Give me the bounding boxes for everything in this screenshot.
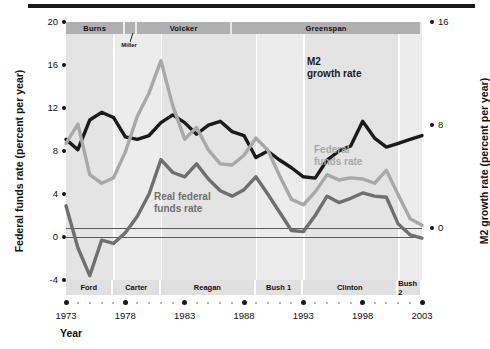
x-tick-label-1983: 1983 <box>165 310 205 321</box>
x-minor-dot <box>385 302 387 304</box>
annotation-rff-line1: Real federal <box>154 191 211 203</box>
x-axis-dot-row <box>66 299 422 307</box>
y-tick-right-0: 0 <box>430 222 443 233</box>
annotation-rff-line2: funds rate <box>154 203 211 215</box>
annotation-ff-line1: Federal <box>314 144 362 156</box>
y-tick-left-16: 16 <box>22 59 66 70</box>
plot-area <box>66 22 422 280</box>
y-tick-left-neg4: -4 <box>22 274 66 285</box>
series-line-federal-funds-rate <box>66 61 422 225</box>
x-minor-dot <box>314 302 316 304</box>
x-minor-dot <box>160 302 162 304</box>
x-minor-dot <box>196 302 198 304</box>
x-minor-dot <box>89 302 91 304</box>
x-minor-dot <box>231 302 233 304</box>
x-tick-dot-2003 <box>420 300 425 305</box>
x-minor-dot <box>172 302 174 304</box>
x-minor-dot <box>290 302 292 304</box>
x-tick-label-1988: 1988 <box>224 310 264 321</box>
series-line-real-federal-funds-rate <box>66 160 422 276</box>
x-tick-label-1993: 1993 <box>283 310 323 321</box>
y-tick-left-0: 0 <box>22 231 66 242</box>
chairman-segment-burns: Burns <box>66 22 123 34</box>
x-minor-dot <box>397 302 399 304</box>
x-tick-label-2003: 2003 <box>402 310 442 321</box>
x-tick-dot-1973 <box>64 300 69 305</box>
president-segment-reagan: Reagan <box>161 280 254 295</box>
y-tick-left-8: 8 <box>22 145 66 156</box>
x-minor-dot <box>409 302 411 304</box>
x-minor-dot <box>101 302 103 304</box>
x-tick-label-1973: 1973 <box>46 310 86 321</box>
president-segment-ford: Ford <box>66 280 111 295</box>
x-minor-dot <box>338 302 340 304</box>
y-tick-right-8: 8 <box>430 119 443 130</box>
y-tick-right-16: 16 <box>430 16 449 27</box>
x-tick-dot-1988 <box>242 300 247 305</box>
x-tick-dot-1978 <box>123 300 128 305</box>
chairman-segment-miller <box>125 22 135 34</box>
annotation-federal-funds-rate: Federal funds rate <box>314 144 362 168</box>
chairman-segment-volcker: Volcker <box>137 22 230 34</box>
top-rule <box>28 4 475 8</box>
x-tick-dot-1993 <box>301 300 306 305</box>
presidents-strip: FordCarterReaganBush 1ClintonBush 2 <box>66 280 422 295</box>
fed-chairmen-strip: BurnsVolckerGreenspan <box>66 22 422 34</box>
series-lines <box>66 22 422 280</box>
x-tick-label-1978: 1978 <box>105 310 145 321</box>
annotation-ff-line2: funds rate <box>314 156 362 168</box>
president-segment-bush-2: Bush 2 <box>398 280 420 295</box>
president-segment-carter: Carter <box>113 280 158 295</box>
y-tick-left-4: 4 <box>22 188 66 199</box>
y-tick-left-20: 20 <box>22 16 66 27</box>
x-axis-title: Year <box>60 327 82 339</box>
y-axis-right-title: M2 growth rate (percent per year) <box>478 56 490 266</box>
x-minor-dot <box>267 302 269 304</box>
x-minor-dot <box>255 302 257 304</box>
y-tick-left-12: 12 <box>22 102 66 113</box>
x-minor-dot <box>148 302 150 304</box>
president-segment-clinton: Clinton <box>303 280 396 295</box>
annotation-m2-growth-rate: M2 growth rate <box>307 56 361 80</box>
x-tick-label-1998: 1998 <box>343 310 383 321</box>
x-tick-dot-1998 <box>360 300 365 305</box>
chairman-segment-greenspan: Greenspan <box>232 22 420 34</box>
chairman-label-miller: Miller <box>121 42 137 48</box>
x-minor-dot <box>326 302 328 304</box>
x-minor-dot <box>136 302 138 304</box>
x-minor-dot <box>219 302 221 304</box>
annotation-m2-line1: M2 <box>307 56 361 68</box>
x-minor-dot <box>374 302 376 304</box>
annotation-real-federal-funds-rate: Real federal funds rate <box>154 191 211 215</box>
annotation-m2-line2: growth rate <box>307 68 361 80</box>
x-tick-dot-1983 <box>182 300 187 305</box>
x-minor-dot <box>112 302 114 304</box>
x-minor-dot <box>207 302 209 304</box>
president-segment-bush-1: Bush 1 <box>256 280 301 295</box>
x-minor-dot <box>279 302 281 304</box>
x-minor-dot <box>350 302 352 304</box>
x-minor-dot <box>77 302 79 304</box>
